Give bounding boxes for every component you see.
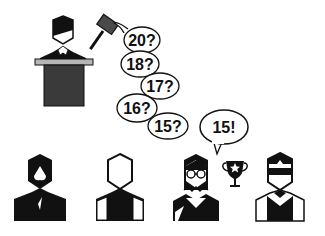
auctioneer-head: [53, 16, 73, 44]
auction-scene: 20? 18? 17? 16? 15? 15!: [0, 0, 325, 236]
bid-bubble: 18?: [121, 51, 159, 77]
bid-label: 20?: [128, 32, 156, 49]
winning-bid-bubble: 15!: [200, 110, 248, 154]
bid-label: 17?: [146, 78, 174, 95]
bid-bubbles: 20? 18? 17? 16? 15?: [114, 23, 188, 139]
bid-label: 15?: [154, 118, 182, 135]
gavel-icon: [83, 14, 118, 54]
bid-bubble: 20?: [124, 27, 160, 53]
trophy-icon: [223, 161, 247, 187]
bidder-bearded-man: [14, 154, 66, 221]
bid-label: 16?: [123, 100, 151, 117]
bid-bubble: 16?: [117, 94, 157, 122]
bidder-outline-man: [96, 154, 144, 221]
winning-bid-label: 15!: [212, 119, 235, 136]
bid-label: 18?: [126, 56, 154, 73]
bid-bubble: 15?: [148, 113, 188, 139]
bidder-sunglasses-man: [256, 153, 304, 221]
auctioneer: [35, 14, 118, 106]
podium-icon: [35, 59, 93, 106]
bidder-woman-glasses: [173, 154, 219, 221]
